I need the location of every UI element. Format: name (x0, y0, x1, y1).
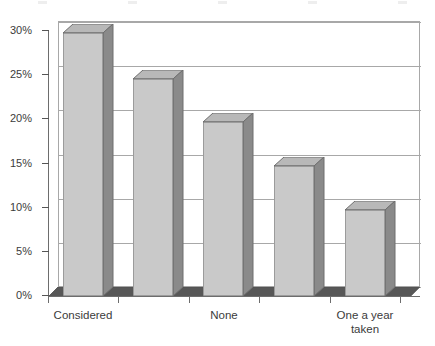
x-tick-0 (48, 297, 49, 303)
x-tick-1 (118, 297, 119, 303)
y-tick-mark-5 (42, 251, 49, 252)
bar-4[interactable] (274, 157, 325, 297)
y-tick-label-5: 5% (16, 246, 32, 257)
y-tick-label-15: 15% (10, 158, 32, 169)
x-axis-line (48, 296, 420, 297)
y-tick-mark-30 (42, 30, 49, 31)
bar-none[interactable] (203, 113, 254, 297)
bar-one-a-year-taken[interactable] (345, 201, 396, 297)
y-tick-label-10: 10% (10, 202, 32, 213)
bars-layer (0, 0, 435, 346)
x-tick-3 (259, 297, 260, 303)
x-tick-2 (189, 297, 190, 303)
y-tick-label-30: 30% (10, 25, 32, 36)
y-tick-mark-20 (42, 118, 49, 119)
y-tick-mark-15 (42, 163, 49, 164)
y-tick-mark-25 (42, 74, 49, 75)
x-tick-5 (400, 297, 401, 303)
y-axis: 30% 25% 20% 15% 10% 5% 0% (0, 0, 40, 346)
bar-chart: 30% 25% 20% 15% 10% 5% 0% Considered Non… (0, 0, 435, 346)
y-tick-mark-10 (42, 207, 49, 208)
bar-2[interactable] (133, 70, 184, 297)
y-tick-label-25: 25% (10, 69, 32, 80)
x-label-none: None (179, 308, 269, 322)
x-tick-4 (330, 297, 331, 303)
y-tick-label-0: 0% (16, 290, 32, 301)
bar-considered[interactable] (63, 24, 114, 297)
x-label-one-a-year-taken: One a year taken (320, 308, 410, 336)
x-label-considered: Considered (38, 308, 128, 322)
y-tick-label-20: 20% (10, 113, 32, 124)
